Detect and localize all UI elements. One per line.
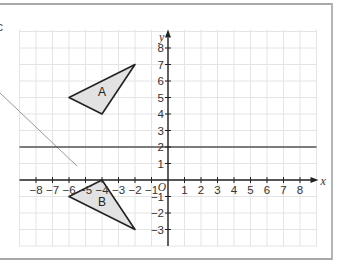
x-tick-label: 8 xyxy=(297,184,303,196)
origin-label: O xyxy=(158,181,167,193)
y-tick-label: 6 xyxy=(158,75,164,87)
y-tick-label: 8 xyxy=(158,42,164,54)
y-tick-label: 3 xyxy=(158,125,164,137)
x-tick-label: 1 xyxy=(181,184,187,196)
y-tick-label: 5 xyxy=(158,92,164,104)
y-tick-label: −3 xyxy=(151,224,164,236)
x-axis-label: x xyxy=(320,174,327,188)
x-tick-label: −5 xyxy=(79,184,92,196)
x-tick-label: 2 xyxy=(198,184,204,196)
y-axis-arrow-icon xyxy=(165,30,171,38)
pointer-line xyxy=(0,93,77,166)
y-tick-label: 7 xyxy=(158,59,164,71)
y-tick-label: 2 xyxy=(158,141,164,153)
x-tick-label: −3 xyxy=(112,184,125,196)
x-tick-label: 7 xyxy=(280,184,286,196)
x-tick-label: 3 xyxy=(214,184,220,196)
triangle-b-label: B xyxy=(98,195,106,209)
y-tick-label: 4 xyxy=(158,108,165,120)
x-tick-label: 4 xyxy=(231,184,238,196)
y-axis-label: y xyxy=(158,30,165,44)
x-tick-label: −6 xyxy=(62,184,75,196)
x-tick-label: 6 xyxy=(264,184,270,196)
x-tick-label: −8 xyxy=(29,184,42,196)
x-tick-label: −2 xyxy=(128,184,141,196)
x-tick-label: −4 xyxy=(95,184,109,196)
triangle-a-label: A xyxy=(98,85,106,99)
x-tick-label: 5 xyxy=(247,184,253,196)
x-axis-arrow-icon xyxy=(311,177,319,183)
x-tick-label: −7 xyxy=(46,184,59,196)
y-tick-label: −2 xyxy=(151,207,164,219)
y-tick-label: 1 xyxy=(158,158,164,170)
coordinate-grid: AB−8−7−6−5−4−3−2−11234567887654321−1−2−3… xyxy=(0,0,344,267)
